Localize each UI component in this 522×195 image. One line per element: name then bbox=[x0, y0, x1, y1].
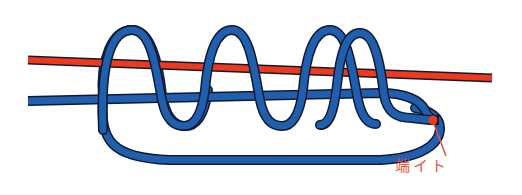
leader-line bbox=[28, 93, 437, 120]
tag-end-label: 端イト bbox=[395, 154, 449, 175]
